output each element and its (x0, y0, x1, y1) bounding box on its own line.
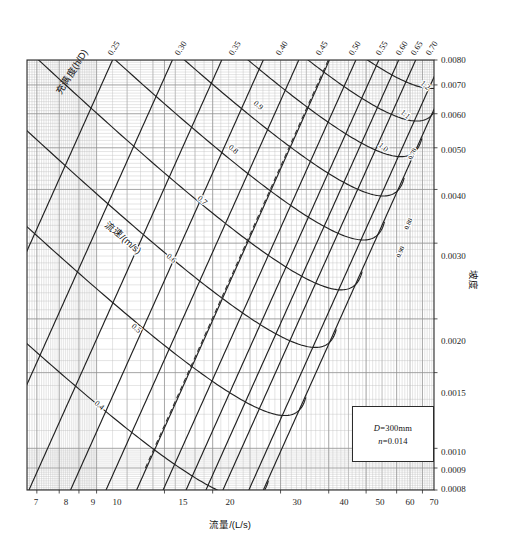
velocity-label-0.7: 0.7 (196, 194, 209, 207)
x-tick-60: 60 (406, 497, 416, 507)
label-layer: 7 8 9 10 15 20 30 40 50 60 70 0.0080 0.0… (0, 0, 519, 542)
x-tick-40: 40 (340, 497, 350, 507)
top-tick-0.50: 0.50 (346, 39, 362, 57)
y-tick-0.0050: 0.0050 (441, 145, 466, 155)
top-axis-tick-labels: 0.25 0.30 0.35 0.40 0.45 0.50 0.55 0.60 … (105, 39, 439, 57)
top-tick-0.55: 0.55 (373, 39, 389, 57)
top-tick-0.70: 0.70 (423, 39, 439, 57)
legend-roughness: n=0.014 (378, 436, 408, 446)
velocity-label-0.4: 0.4 (93, 399, 106, 412)
legend-roughness-value: =0.014 (383, 436, 408, 446)
x-tick-7: 7 (34, 497, 39, 507)
top-tick-0.25: 0.25 (105, 39, 121, 57)
y-tick-0.0070: 0.0070 (441, 80, 466, 90)
y-tick-0.0009: 0.0009 (441, 465, 466, 475)
top-axis-title: 充满度(h/D) (53, 47, 89, 96)
velocity-label-0.6: 0.6 (165, 252, 178, 265)
top-tick-0.45: 0.45 (313, 39, 329, 57)
legend-diameter-value: =300mm (380, 423, 412, 433)
y-tick-0.0020: 0.0020 (441, 336, 466, 346)
y-tick-0.0010: 0.0010 (441, 447, 466, 457)
top-tick-0.65: 0.65 (408, 39, 424, 57)
y-tick-0.0080: 0.0080 (441, 55, 466, 65)
x-axis-title: 流量/(L/s) (209, 519, 251, 530)
velocity-family-title: 流速/(m/s) (103, 219, 144, 256)
parameter-legend-box: D=300mm n=0.014 (352, 406, 434, 462)
x-tick-8: 8 (64, 497, 69, 507)
top-tick-0.35: 0.35 (226, 39, 242, 57)
x-tick-15: 15 (179, 497, 189, 507)
velocity-curve-labels: 0.4 0.5 0.6 0.7 0.8 0.9 1.0 1.1 1.2 (93, 79, 432, 412)
fill-label-0.70: 0.70 (407, 146, 418, 160)
y-tick-0.0040: 0.0040 (441, 191, 466, 201)
fill-label-0.90: 0.90 (395, 244, 406, 258)
velocity-label-0.5: 0.5 (130, 322, 143, 335)
y-tick-0.0008: 0.0008 (441, 484, 466, 494)
y-tick-0.0030: 0.0030 (441, 251, 466, 261)
x-tick-20: 20 (226, 497, 236, 507)
fill-label-0.80: 0.80 (403, 216, 414, 230)
y-tick-0.0060: 0.0060 (441, 110, 466, 120)
legend-diameter: D=300mm (374, 423, 412, 433)
velocity-label-0.8: 0.8 (227, 143, 240, 156)
top-tick-0.40: 0.40 (273, 39, 289, 57)
nomograph-chart: 7 8 9 10 15 20 30 40 50 60 70 0.0080 0.0… (0, 0, 519, 542)
y-axis-tick-labels: 0.0080 0.0070 0.0060 0.0050 0.0040 0.003… (441, 55, 466, 494)
velocity-label-0.9: 0.9 (252, 99, 265, 112)
velocity-label-1.2: 1.2 (419, 79, 432, 92)
velocity-label-1.1: 1.1 (399, 108, 412, 121)
x-tick-30: 30 (293, 497, 303, 507)
x-tick-9: 9 (91, 497, 96, 507)
top-tick-0.30: 0.30 (172, 39, 188, 57)
x-tick-50: 50 (376, 497, 386, 507)
x-axis-tick-labels: 7 8 9 10 15 20 30 40 50 60 70 (34, 497, 439, 507)
top-tick-0.60: 0.60 (393, 39, 409, 57)
y-axis-title: 坡度 (468, 270, 479, 290)
x-tick-10: 10 (113, 497, 123, 507)
velocity-label-1.0: 1.0 (377, 141, 390, 154)
inner-fill-ratio-labels: 0.70 0.80 0.90 (395, 146, 418, 258)
x-tick-70: 70 (430, 497, 440, 507)
y-tick-0.0015: 0.0015 (441, 388, 466, 398)
